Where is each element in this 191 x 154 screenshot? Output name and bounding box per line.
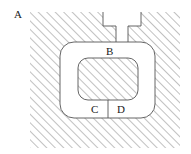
label-b: B (106, 46, 113, 57)
label-d: D (117, 104, 125, 115)
label-a: A (14, 9, 22, 20)
label-c: C (91, 104, 98, 115)
inner-hatched-core (78, 58, 138, 100)
figure-container: A B C D (0, 0, 191, 154)
cross-section-drawing (0, 0, 191, 154)
